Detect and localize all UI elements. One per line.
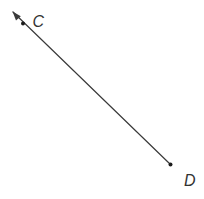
figure-canvas: C D xyxy=(0,0,204,199)
point-d-label: D xyxy=(184,172,196,189)
point-c-label: C xyxy=(33,13,45,30)
point-c-dot xyxy=(21,22,25,26)
point-d-dot xyxy=(169,163,173,167)
geometry-figure: C D xyxy=(0,0,204,199)
